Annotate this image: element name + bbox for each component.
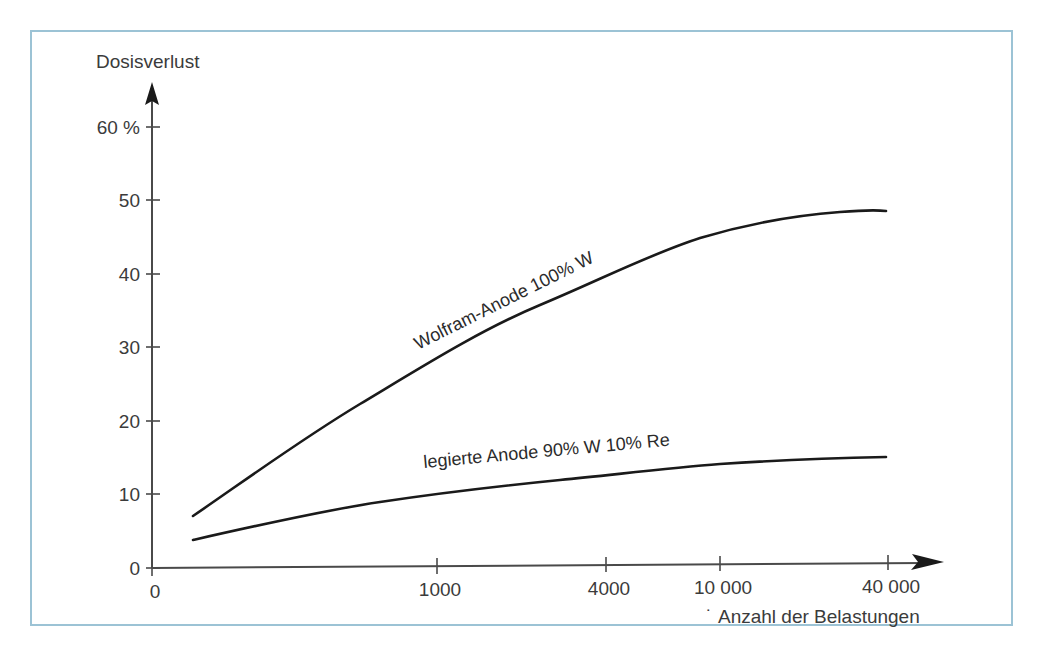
x-tick-label-1000: 1000 xyxy=(419,579,461,600)
series-label-legierte-anode: legierte Anode 90% W 10% Re xyxy=(423,430,671,472)
chart-plot-area: 60 % 50 40 30 20 10 0 Dosisverlust 0 100… xyxy=(0,0,1037,654)
y-tick-label-40: 40 xyxy=(119,264,140,285)
x-axis-line xyxy=(152,563,925,568)
y-tick-label-20: 20 xyxy=(119,411,140,432)
x-tick-label-4000: 4000 xyxy=(588,578,630,599)
curve-legierte-anode xyxy=(193,457,886,540)
x-tick-label-10000: 10 000 xyxy=(694,577,752,598)
x-tick-label-40000: 40 000 xyxy=(862,576,920,597)
curve-wolfram-anode xyxy=(193,210,886,516)
y-tick-label-50: 50 xyxy=(119,190,140,211)
x-axis-title-mark: ˙ xyxy=(706,606,712,627)
y-tick-label-30: 30 xyxy=(119,337,140,358)
chart-figure: 60 % 50 40 30 20 10 0 Dosisverlust 0 100… xyxy=(0,0,1037,654)
y-tick-label-60: 60 % xyxy=(97,117,140,138)
x-tick-label-0: 0 xyxy=(150,581,161,602)
y-tick-label-0: 0 xyxy=(129,558,140,579)
x-axis-arrow-icon xyxy=(911,554,944,570)
y-tick-label-10: 10 xyxy=(119,484,140,505)
series-label-wolfram-anode: Wolfram-Anode 100% W xyxy=(411,247,597,353)
y-axis-title: Dosisverlust xyxy=(96,51,200,72)
x-axis-title: Anzahl der Belastungen xyxy=(718,606,920,627)
